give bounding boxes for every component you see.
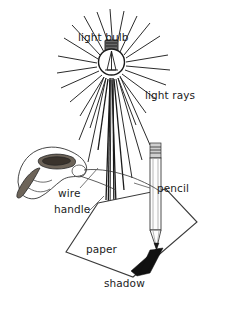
- figure-canvas: light bulb light rays wire handle pencil…: [0, 0, 235, 333]
- label-paper: paper: [86, 243, 118, 255]
- hand-group: [17, 147, 158, 199]
- diagram-svg: light bulb light rays wire handle pencil…: [0, 0, 235, 333]
- label-light-rays: light rays: [145, 89, 195, 101]
- label-shadow: shadow: [104, 277, 145, 289]
- pencil-shape: [150, 143, 161, 250]
- label-pencil: pencil: [157, 182, 189, 194]
- label-light-bulb: light bulb: [78, 31, 129, 43]
- label-handle: handle: [54, 203, 90, 215]
- label-wire: wire: [58, 187, 80, 199]
- light-bulb-shape: [99, 40, 125, 75]
